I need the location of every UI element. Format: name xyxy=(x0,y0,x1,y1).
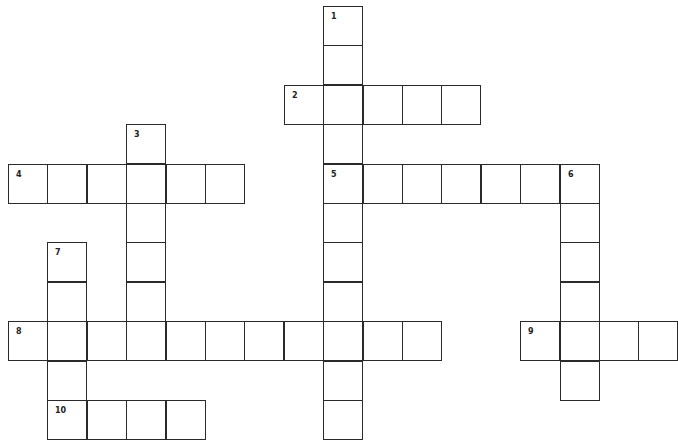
crossword-cell[interactable]: 9 xyxy=(520,321,560,361)
crossword-cell[interactable] xyxy=(323,282,363,322)
crossword-cell[interactable] xyxy=(244,321,284,361)
crossword-cell[interactable]: 10 xyxy=(47,400,87,440)
crossword-cell[interactable] xyxy=(560,203,600,243)
crossword-cell[interactable] xyxy=(323,124,363,164)
crossword-cell[interactable]: 6 xyxy=(560,164,600,204)
crossword-cell[interactable] xyxy=(47,321,87,361)
crossword-cell[interactable]: 5 xyxy=(323,164,363,204)
clue-number: 1 xyxy=(331,13,337,21)
crossword-cell[interactable] xyxy=(441,164,481,204)
crossword-cell[interactable]: 1 xyxy=(323,6,363,46)
crossword-cell[interactable] xyxy=(47,282,87,322)
crossword-cell[interactable] xyxy=(481,164,521,204)
clue-number: 7 xyxy=(55,249,61,257)
crossword-cell[interactable] xyxy=(363,321,403,361)
crossword-cell[interactable] xyxy=(441,85,481,125)
crossword-cell[interactable] xyxy=(205,164,245,204)
crossword-cell[interactable] xyxy=(323,85,363,125)
clue-number: 9 xyxy=(528,328,534,336)
crossword-cell[interactable] xyxy=(166,400,206,440)
clue-number: 3 xyxy=(134,131,140,139)
crossword-cell[interactable] xyxy=(47,164,87,204)
crossword-cell[interactable] xyxy=(402,164,442,204)
crossword-cell[interactable] xyxy=(126,321,166,361)
crossword-cell[interactable] xyxy=(402,85,442,125)
crossword-cell[interactable] xyxy=(638,321,678,361)
crossword-cell[interactable] xyxy=(560,321,600,361)
crossword-cell[interactable] xyxy=(402,321,442,361)
crossword-cell[interactable] xyxy=(166,164,206,204)
crossword-cell[interactable] xyxy=(126,164,166,204)
crossword-cell[interactable] xyxy=(87,164,127,204)
crossword-cell[interactable] xyxy=(363,85,403,125)
clue-number: 2 xyxy=(292,92,298,100)
crossword-cell[interactable] xyxy=(87,400,127,440)
clue-number: 8 xyxy=(16,328,22,336)
crossword-cell[interactable] xyxy=(126,203,166,243)
crossword-cell[interactable] xyxy=(126,282,166,322)
crossword-cell[interactable]: 2 xyxy=(284,85,324,125)
crossword-cell[interactable] xyxy=(166,321,206,361)
crossword-cell[interactable] xyxy=(520,164,560,204)
clue-number: 5 xyxy=(331,171,337,179)
crossword-cell[interactable] xyxy=(560,242,600,282)
crossword-cell[interactable]: 8 xyxy=(8,321,48,361)
crossword-cell[interactable]: 7 xyxy=(47,242,87,282)
clue-number: 6 xyxy=(568,171,574,179)
crossword-cell[interactable] xyxy=(126,242,166,282)
crossword-cell[interactable] xyxy=(323,361,363,401)
crossword-cell[interactable]: 4 xyxy=(8,164,48,204)
crossword-cell[interactable] xyxy=(87,321,127,361)
crossword-cell[interactable] xyxy=(205,321,245,361)
clue-number: 4 xyxy=(16,171,22,179)
crossword-cell[interactable] xyxy=(284,321,324,361)
crossword-cell[interactable] xyxy=(323,45,363,85)
crossword-cell[interactable] xyxy=(363,164,403,204)
crossword-cell[interactable] xyxy=(323,203,363,243)
crossword-cell[interactable] xyxy=(560,282,600,322)
crossword-cell[interactable] xyxy=(599,321,639,361)
crossword-cell[interactable] xyxy=(47,361,87,401)
crossword-cell[interactable] xyxy=(323,321,363,361)
crossword-cell[interactable]: 3 xyxy=(126,124,166,164)
crossword-cell[interactable] xyxy=(126,400,166,440)
crossword-cell[interactable] xyxy=(560,361,600,401)
crossword-cell[interactable] xyxy=(323,242,363,282)
crossword-cell[interactable] xyxy=(323,400,363,440)
clue-number: 10 xyxy=(55,407,66,415)
